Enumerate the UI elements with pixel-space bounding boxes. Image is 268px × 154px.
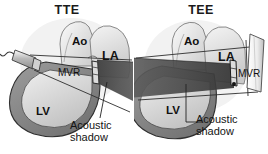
tee-acoustic-shadow-callout: Acoustic shadow (196, 114, 238, 138)
panel-tte: TTE (0, 0, 134, 154)
tee-label-la: LA (218, 51, 235, 64)
tte-shadow-line2: shadow (70, 132, 112, 144)
tte-label-lv: LV (36, 106, 50, 118)
tee-label-lv: LV (166, 105, 180, 117)
panel-tee: TEE (134, 0, 268, 154)
echo-shadow-figure: TTE (0, 0, 268, 154)
tte-label-mvr: MVR (58, 68, 80, 78)
tee-shadow-line2: shadow (196, 126, 238, 138)
tee-label-mvr: MVR (238, 69, 260, 79)
tte-label-la: LA (102, 50, 119, 63)
tee-probe (247, 34, 264, 92)
tte-acoustic-shadow-callout: Acoustic shadow (70, 120, 112, 144)
tte-label-ao: Ao (72, 36, 87, 48)
tee-label-ao: Ao (184, 36, 199, 48)
